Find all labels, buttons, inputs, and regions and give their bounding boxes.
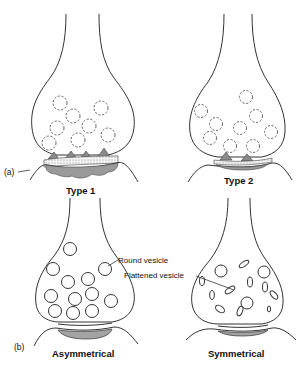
type1-synapse <box>30 14 138 182</box>
symmetrical-cleft-line <box>218 325 268 327</box>
symmetrical-synapse <box>186 198 296 340</box>
synapse-types-diagram: (a) Type 1 Type 2 <box>0 0 296 368</box>
part-a-leader <box>18 170 30 172</box>
type1-vesicles <box>42 96 115 150</box>
symmetrical-bouton-outline <box>192 198 283 324</box>
type1-label: Type 1 <box>66 185 96 196</box>
flattened-vesicle-annotation: Flattened vesicle <box>124 271 185 280</box>
round-vesicle-annotation: Round vesicle <box>118 256 169 265</box>
type2-label: Type 2 <box>224 175 253 186</box>
type2-vesicles <box>195 91 278 153</box>
round-vesicle-leader <box>108 260 118 266</box>
type2-synapse <box>188 14 292 182</box>
symmetrical-vesicles <box>200 259 280 317</box>
asymmetrical-label: Asymmetrical <box>52 348 114 359</box>
asymmetrical-cleft-line <box>58 323 112 325</box>
part-a-marker: (a) <box>4 167 15 177</box>
part-b-marker: (b) <box>14 342 25 352</box>
type1-bouton-outline <box>32 14 135 155</box>
asymmetrical-synapse <box>34 198 138 346</box>
symmetrical-label: Symmetrical <box>208 348 265 359</box>
